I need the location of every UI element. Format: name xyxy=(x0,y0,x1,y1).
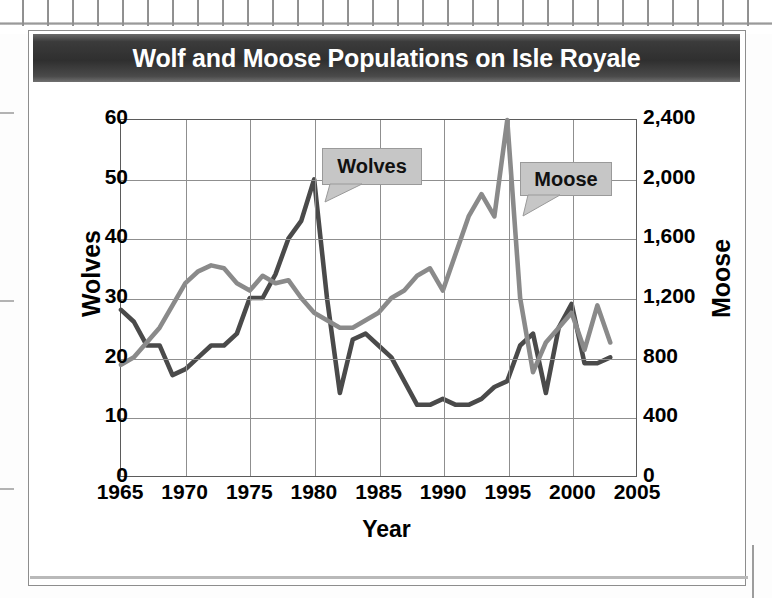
page-edge-marks xyxy=(0,0,26,598)
spiral-binding xyxy=(0,0,772,34)
binding-ring xyxy=(297,0,299,26)
binding-ring xyxy=(197,0,199,26)
binding-ring xyxy=(597,0,599,26)
binding-ring xyxy=(397,0,399,26)
binding-ring xyxy=(422,0,424,26)
callout-moose-tail xyxy=(33,84,740,554)
page-edge-mark xyxy=(0,112,14,114)
sheet-shadow xyxy=(30,576,748,579)
binding-ring xyxy=(122,0,124,26)
right-edge-rule xyxy=(752,545,754,598)
title-banner: Wolf and Moose Populations on Isle Royal… xyxy=(33,34,740,82)
binding-ring xyxy=(72,0,74,26)
binding-ring xyxy=(522,0,524,26)
binding-ring xyxy=(747,0,749,26)
binding-ring xyxy=(672,0,674,26)
page-edge-mark xyxy=(0,300,14,302)
binding-ring xyxy=(697,0,699,26)
binding-ring xyxy=(172,0,174,26)
binding-ring xyxy=(272,0,274,26)
binding-ring xyxy=(722,0,724,26)
page-edge-mark xyxy=(0,488,14,490)
binding-ring xyxy=(572,0,574,26)
binding-ring xyxy=(247,0,249,26)
page-root: Wolf and Moose Populations on Isle Royal… xyxy=(0,0,772,598)
binding-ring xyxy=(647,0,649,26)
binding-ring xyxy=(622,0,624,26)
binding-ring xyxy=(472,0,474,26)
binding-ring xyxy=(547,0,549,26)
binding-ring xyxy=(497,0,499,26)
binding-ring xyxy=(447,0,449,26)
binding-ring xyxy=(222,0,224,26)
binding-ring xyxy=(47,0,49,26)
binding-ring xyxy=(147,0,149,26)
page-title: Wolf and Moose Populations on Isle Royal… xyxy=(132,44,640,73)
binding-ring xyxy=(372,0,374,26)
binding-ring xyxy=(97,0,99,26)
chart-figure: Wolves Moose Year 010203040506004008001,… xyxy=(33,84,740,554)
binding-rail xyxy=(0,22,772,25)
binding-ring xyxy=(322,0,324,26)
binding-ring xyxy=(347,0,349,26)
